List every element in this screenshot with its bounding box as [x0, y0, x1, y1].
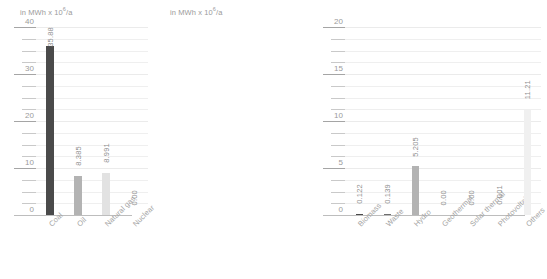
bar-slot[interactable]	[524, 27, 531, 215]
bar-value-label: 8.385	[74, 146, 83, 166]
y-axis-major-tick	[323, 27, 345, 28]
bar-slot[interactable]	[440, 27, 447, 215]
y-axis-unit-suffix-left: /a	[66, 8, 72, 17]
y-axis-minor-tick	[22, 133, 36, 134]
y-axis-unit-suffix-right: /a	[216, 8, 222, 17]
y-axis-minor-tick	[331, 133, 345, 134]
bar-value-label: 0.122	[355, 184, 364, 204]
bar-value-label: 0.00	[130, 190, 139, 205]
y-axis-minor-tick	[22, 156, 36, 157]
y-axis-minor-tick	[22, 203, 36, 204]
y-axis-major-tick	[14, 121, 36, 122]
y-axis-minor-tick	[331, 180, 345, 181]
y-axis-major-tick	[323, 168, 345, 169]
y-axis-minor-tick	[331, 156, 345, 157]
y-axis-minor-tick	[22, 180, 36, 181]
y-axis-minor-tick	[331, 86, 345, 87]
y-axis-minor-tick	[22, 39, 36, 40]
bar-value-label: 8.991	[102, 143, 111, 163]
y-axis-tick-label: 5	[323, 158, 343, 167]
y-axis-major-tick	[14, 168, 36, 169]
y-axis-tick-label: 0	[14, 205, 34, 214]
y-axis-minor-tick	[331, 51, 345, 52]
y-axis-minor-tick	[22, 51, 36, 52]
x-axis-category-label: Oil	[75, 215, 88, 228]
chart-renewables: in MWh x 106/a 051015200.122Biomass0.139…	[160, 0, 391, 279]
y-axis-tick-label: 30	[14, 64, 34, 73]
y-axis-minor-tick	[22, 192, 36, 193]
bar[interactable]	[412, 166, 419, 215]
y-axis-tick-label: 20	[14, 111, 34, 120]
y-axis-minor-tick	[331, 62, 345, 63]
y-axis-minor-tick	[22, 98, 36, 99]
bar-value-label: 0.139	[383, 184, 392, 204]
y-axis-minor-tick	[22, 145, 36, 146]
bar[interactable]	[524, 110, 531, 215]
bar-slot[interactable]	[468, 27, 475, 215]
plot-area-left: 01020304035.88Coal8.385Oil8.991Natural g…	[36, 27, 148, 215]
y-axis-minor-tick	[331, 203, 345, 204]
bar-slot[interactable]	[74, 27, 82, 215]
y-axis-minor-tick	[22, 86, 36, 87]
bar[interactable]	[102, 173, 110, 215]
y-axis-minor-tick	[331, 109, 345, 110]
plot-area-right: 051015200.122Biomass0.139Waste5.205Hydro…	[345, 27, 541, 215]
y-axis-unit-prefix-right: in MWh x 10	[170, 8, 213, 17]
bar-slot[interactable]	[412, 27, 419, 215]
bar-value-label: 0.00	[439, 190, 448, 205]
y-axis-unit-prefix-left: in MWh x 10	[20, 8, 63, 17]
bar[interactable]	[46, 46, 54, 215]
y-axis-tick-label: 15	[323, 64, 343, 73]
bar-value-label: 11.21	[523, 80, 532, 99]
bar-value-label: 5.205	[411, 137, 420, 157]
y-axis-tick-label: 10	[14, 158, 34, 167]
y-axis-minor-tick	[331, 39, 345, 40]
y-axis-minor-tick	[22, 109, 36, 110]
bar-slot[interactable]	[130, 27, 138, 215]
y-axis-unit-label-left: in MWh x 106/a	[20, 6, 72, 17]
y-axis-tick-label: 20	[323, 17, 343, 26]
y-axis-tick-label: 10	[323, 111, 343, 120]
y-axis-minor-tick	[331, 98, 345, 99]
y-axis-tick-label: 0	[323, 205, 343, 214]
y-axis-minor-tick	[22, 62, 36, 63]
y-axis-minor-tick	[331, 145, 345, 146]
bar-value-label: 35.88	[46, 27, 55, 47]
bar-slot[interactable]	[102, 27, 110, 215]
bar-value-label: 0.001	[495, 185, 504, 205]
chart-fossil-nuclear: in MWh x 106/a 01020304035.88Coal8.385Oi…	[0, 0, 160, 279]
bar-slot[interactable]	[46, 27, 54, 215]
y-axis-major-tick	[323, 121, 345, 122]
y-axis-major-tick	[14, 74, 36, 75]
y-axis-major-tick	[14, 27, 36, 28]
y-axis-major-tick	[323, 74, 345, 75]
y-axis-minor-tick	[331, 192, 345, 193]
y-axis-tick-label: 40	[14, 17, 34, 26]
bar-value-label: 0.00	[467, 190, 476, 205]
bar[interactable]	[74, 176, 82, 215]
y-axis-unit-label-right: in MWh x 106/a	[170, 6, 222, 17]
